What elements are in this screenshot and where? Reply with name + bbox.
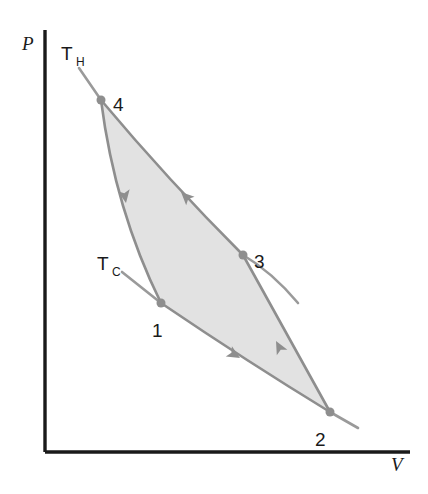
cold-isotherm-label: T [97, 253, 109, 274]
state-point-1-marker [157, 299, 166, 308]
cold-isotherm-subscript: C [112, 265, 121, 279]
hot-isotherm-subscript: H [76, 55, 85, 69]
state-point-2-marker [326, 408, 335, 417]
pv-diagram-figure: P V T H T C 1 2 3 4 [0, 0, 428, 494]
hot-isotherm-curve [79, 68, 101, 100]
x-axis-label: V [391, 454, 405, 475]
cycle-shaded-area [101, 100, 330, 412]
state-label-4: 4 [113, 94, 124, 115]
y-axis-label: P [21, 33, 34, 54]
hot-isotherm-label: T [61, 43, 73, 64]
hot-isotherm-right-curve [330, 412, 358, 428]
state-label-3: 3 [254, 251, 265, 272]
state-point-3-marker [239, 251, 248, 260]
state-label-1: 1 [152, 320, 163, 341]
state-label-2: 2 [315, 429, 326, 450]
state-point-4-marker [97, 96, 106, 105]
